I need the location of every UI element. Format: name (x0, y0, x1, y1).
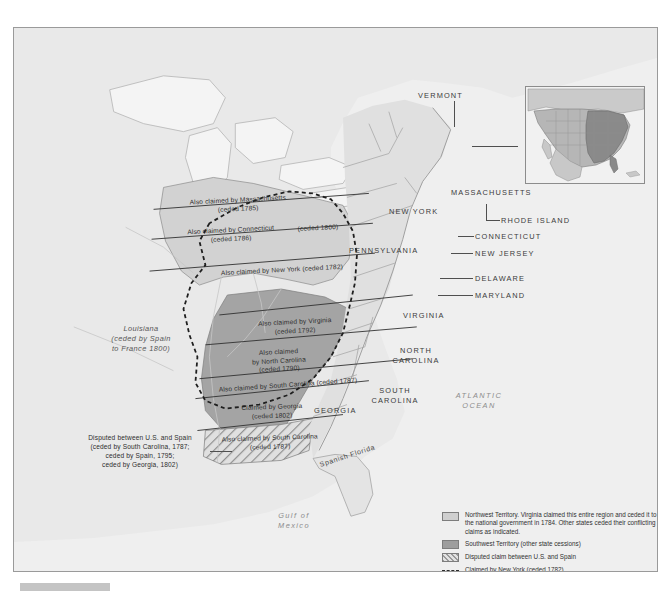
state-label-maryland: MARYLAND (475, 291, 525, 301)
state-label-north-carolina: NORTH CAROLINA (384, 346, 448, 366)
state-label-virginia: VIRGINIA (403, 311, 445, 321)
state-label-south-carolina: SOUTH CAROLINA (363, 386, 427, 406)
leader-maryland (438, 295, 473, 296)
legend-swatch-southwest-territory (442, 540, 459, 549)
legend-swatch-dashed-line (442, 566, 459, 572)
atlantic-line2: OCEAN (436, 401, 522, 411)
leader-disputed-callout (210, 451, 232, 452)
sc-line2: CAROLINA (363, 396, 427, 406)
legend-item-southwest-territory: Southwest Territory (other state cession… (442, 540, 658, 550)
louisiana-line3: to France 1800) (86, 344, 196, 354)
atlantic-line1: ATLANTIC (436, 391, 522, 401)
claim-label-north-carolina: Also claimed by North Carolina (ceded 17… (231, 346, 326, 377)
legend-item-new-york-claim: Claimed by New York (ceded 1782) (442, 566, 658, 572)
disputed-callout-label: Disputed between U.S. and Spain (ceded b… (60, 433, 220, 469)
map-page: Louisiana (ceded by Spain to France 1800… (0, 0, 669, 601)
legend-text-southwest-territory: Southwest Territory (other state cession… (465, 540, 658, 548)
gulf-line2: Mexico (254, 521, 334, 531)
louisiana-label: Louisiana (ceded by Spain to France 1800… (86, 324, 196, 354)
bottom-gray-bar (20, 583, 110, 591)
state-label-vermont: VERMONT (418, 91, 463, 101)
louisiana-line1: Louisiana (86, 324, 196, 334)
legend-item-disputed-claim: Disputed claim between U.S. and Spain (442, 553, 658, 563)
state-label-new-jersey: NEW JERSEY (475, 249, 535, 259)
map-legend: Northwest Territory. Virginia claimed th… (442, 511, 658, 572)
state-label-pennsylvania: PENNSYLVANIA (349, 246, 418, 256)
legend-text-disputed-claim: Disputed claim between U.S. and Spain (465, 553, 658, 561)
state-label-connecticut: CONNECTICUT (475, 232, 541, 242)
inset-locator-map (525, 86, 645, 184)
leader-new-hampshire (472, 146, 518, 147)
gulf-line1: Gulf of (254, 511, 334, 521)
nc-line2: CAROLINA (384, 356, 448, 366)
callout-line1: Disputed between U.S. and Spain (60, 433, 220, 442)
leader-rhode-island-v (486, 204, 487, 221)
map-frame: Louisiana (ceded by Spain to France 1800… (13, 27, 658, 572)
callout-line2: (ceded by South Carolina, 1787; (60, 442, 220, 451)
leader-vermont (454, 101, 455, 127)
state-label-new-york: NEW YORK (389, 207, 438, 217)
legend-swatch-northwest-territory (442, 512, 459, 521)
state-label-delaware: DELAWARE (475, 274, 525, 284)
callout-line3: ceded by Spain, 1795; (60, 451, 220, 460)
legend-text-new-york-claim: Claimed by New York (ceded 1782) (465, 566, 658, 572)
atlantic-ocean-label: ATLANTIC OCEAN (436, 391, 522, 411)
callout-line4: ceded by Georgia, 1802) (60, 460, 220, 469)
state-label-massachusetts: MASSACHUSETTS (451, 188, 532, 198)
leader-connecticut (458, 236, 474, 237)
legend-text-northwest-territory: Northwest Territory. Virginia claimed th… (465, 511, 658, 536)
louisiana-line2: (ceded by Spain (86, 334, 196, 344)
gulf-of-mexico-label: Gulf of Mexico (254, 511, 334, 531)
legend-swatch-disputed-claim (442, 553, 459, 562)
leader-rhode-island (486, 220, 500, 221)
leader-delaware (440, 278, 473, 279)
leader-new-jersey (451, 253, 473, 254)
sc-line1: SOUTH (363, 386, 427, 396)
state-label-rhode-island: RHODE ISLAND (501, 216, 570, 226)
legend-item-northwest-territory: Northwest Territory. Virginia claimed th… (442, 511, 658, 536)
nc-line1: NORTH (384, 346, 448, 356)
